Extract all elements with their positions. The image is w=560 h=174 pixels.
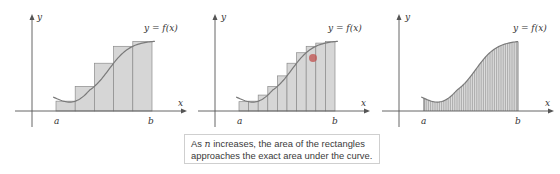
riemann-rectangle [94,63,113,111]
riemann-rectangle [258,95,268,111]
function-label: y = f(x) [327,23,362,33]
y-axis-label: y [36,12,43,22]
y-axis-arrow-icon [213,14,218,20]
riemann-rectangle [325,42,335,111]
x-axis-label: x [178,98,183,108]
riemann-rectangle [239,102,249,111]
x-axis-arrow-icon [364,109,370,114]
function-label: y = f(x) [512,23,547,33]
a-label: a [54,116,59,126]
a-label: a [421,116,426,126]
y-axis-arrow-icon [397,14,402,20]
b-label: b [515,116,521,126]
riemann-rectangle [75,86,94,111]
b-label: b [332,116,338,126]
y-axis-label: y [404,12,411,22]
caption-line-2: approaches the exact area under the curv… [191,150,379,162]
y-axis-arrow-icon [30,14,35,20]
riemann-rectangle [133,42,152,111]
x-axis-label: x [361,98,366,108]
caption-line-1: As n increases, the area of the rectangl… [191,138,379,150]
y-axis-label: y [220,12,227,22]
a-label: a [237,116,242,126]
riemann-rectangle [56,101,75,111]
x-axis-arrow-icon [548,109,554,114]
caption-box: As n increases, the area of the rectangl… [184,134,380,164]
function-label: y = f(x) [143,23,178,33]
x-axis-label: x [545,98,550,108]
b-label: b [148,116,154,126]
x-axis-arrow-icon [181,109,187,114]
riemann-rectangle [114,46,133,111]
riemann-rectangle [316,43,326,111]
highlight-dot-icon [309,54,317,62]
